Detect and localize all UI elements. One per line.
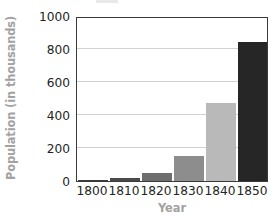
bar	[142, 173, 173, 181]
y-axis-tick-label: 600	[47, 77, 70, 89]
y-axis-tick-label: 200	[47, 143, 70, 155]
y-axis-tick-label: 400	[47, 110, 70, 122]
bar	[174, 156, 205, 181]
y-axis-tick-label: 0	[62, 176, 70, 188]
x-axis-tick-label: 1840	[204, 184, 235, 199]
y-axis-tick-labels: 02004006008001000	[26, 11, 73, 187]
y-axis-title-label: Population (in thousands)	[4, 16, 18, 180]
x-axis-tick-label: 1820	[140, 184, 171, 199]
y-axis-tick-label: 800	[47, 44, 70, 56]
y-axis-tick-label: 1000	[39, 11, 70, 23]
x-axis-tick-label: 1830	[172, 184, 203, 199]
x-axis-tick-label: 1810	[108, 184, 139, 199]
bar	[110, 178, 141, 181]
x-axis-tick-label: 1850	[236, 184, 267, 199]
x-axis-title: Year	[76, 201, 268, 216]
x-axis-tick-labels: 180018101820183018401850	[76, 184, 268, 201]
bar	[206, 103, 237, 181]
bar	[238, 42, 268, 181]
x-axis-tick-label: 1800	[76, 184, 107, 199]
clipped-title-artifact	[96, 0, 118, 3]
y-axis-title: Population (in thousands)	[0, 0, 22, 196]
plot-area	[76, 17, 268, 182]
bar-chart-figure: Population (in thousands) 02004006008001…	[0, 0, 277, 221]
bars-group	[77, 18, 267, 181]
bar	[78, 180, 109, 182]
